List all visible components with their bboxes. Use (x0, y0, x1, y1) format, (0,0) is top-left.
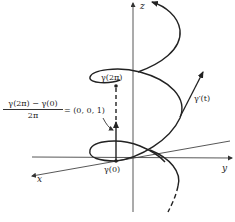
point-gamma-2pi (114, 84, 118, 88)
x-axis (32, 141, 230, 176)
point-gamma-0 (114, 159, 118, 163)
helix-upper (138, 2, 180, 72)
gamma-prime-label: γ′(t) (194, 95, 210, 103)
equals-value: = (0, 0, 1) (64, 106, 105, 115)
z-axis-label: z (140, 2, 145, 11)
helix-below (150, 150, 179, 186)
helix-below-dashed (168, 186, 178, 212)
helix-middle (90, 69, 182, 161)
fraction-numerator: γ(2π) − γ(0) (3, 99, 63, 110)
pointer-arrow (103, 118, 113, 130)
x-axis-label: x (37, 175, 42, 184)
fraction-denominator: 2π (3, 110, 63, 120)
gamma-0-label: γ(0) (104, 166, 120, 174)
y-axis-label: y (222, 164, 227, 173)
gamma-2pi-label: γ(2π) (101, 74, 122, 82)
difference-quotient: γ(2π) − γ(0) 2π (3, 99, 63, 120)
